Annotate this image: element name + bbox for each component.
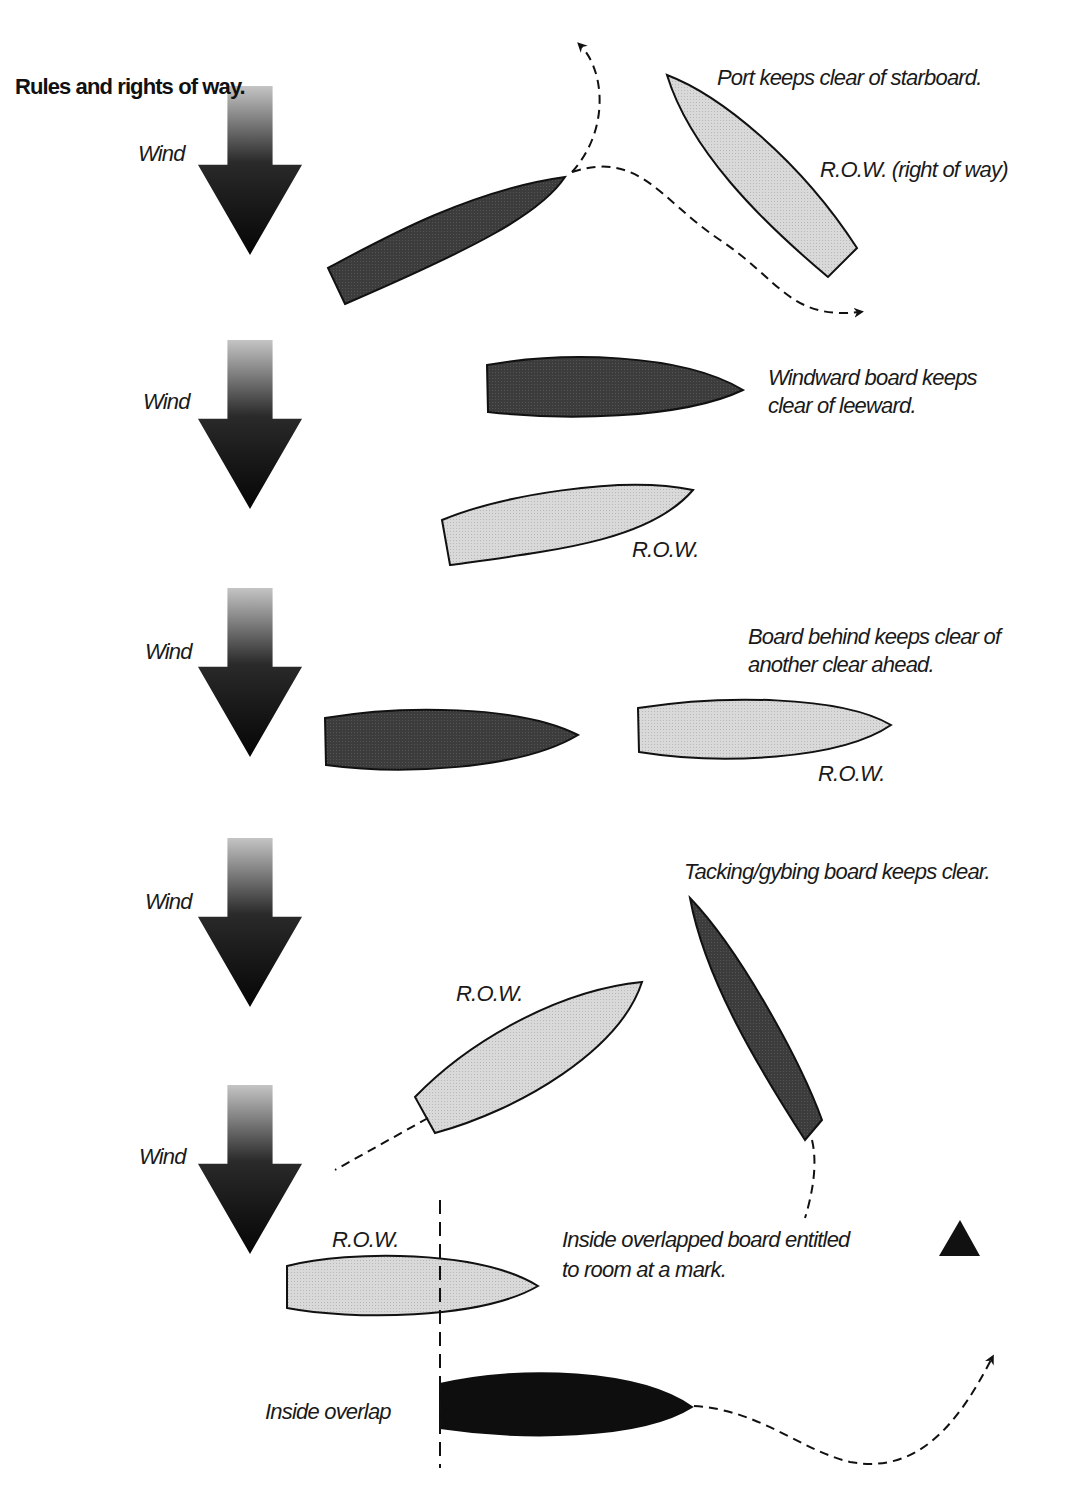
mark-icon xyxy=(939,1220,980,1256)
rule-tacking-gybing: Tacking/gybing board keeps clear. xyxy=(684,858,990,886)
row-label: R.O.W. xyxy=(818,760,885,788)
port-board xyxy=(328,177,565,304)
rule-inside-overlap-line1: Inside overlapped board entitled xyxy=(562,1226,850,1254)
rule-port-starboard: Port keeps clear of starboard. xyxy=(717,64,982,92)
row-label: R.O.W. xyxy=(632,536,699,564)
wind-label: Wind xyxy=(145,888,192,916)
tacking-board xyxy=(690,898,822,1140)
wind-arrow-icon xyxy=(198,838,302,1007)
page-title: Rules and rights of way. xyxy=(15,74,245,100)
inside-board xyxy=(440,1373,692,1435)
wind-label: Wind xyxy=(143,388,190,416)
row-label: R.O.W. (right of way) xyxy=(820,156,1008,184)
row-board-tacking xyxy=(415,982,642,1133)
rule-clear-ahead-line1: Board behind keeps clear of xyxy=(748,623,1000,651)
wind-label: Wind xyxy=(138,140,185,168)
row-label: R.O.W. xyxy=(332,1226,399,1254)
wind-arrow-icon xyxy=(198,588,302,757)
inside-overlap-label: Inside overlap xyxy=(265,1398,391,1426)
rule-windward-line2: clear of leeward. xyxy=(768,392,916,420)
wind-arrow-icon xyxy=(198,86,302,255)
rule-inside-overlap-line2: to room at a mark. xyxy=(562,1256,726,1284)
outside-board xyxy=(287,1256,538,1316)
windward-board xyxy=(487,357,743,416)
gybing-wake-path xyxy=(805,1140,814,1218)
ahead-board xyxy=(638,700,891,759)
rounding-path xyxy=(694,1358,992,1464)
rule-windward-line1: Windward board keeps xyxy=(768,364,977,392)
rules-diagram xyxy=(0,0,1074,1493)
tack-path xyxy=(572,45,600,172)
wind-label: Wind xyxy=(145,638,192,666)
wind-label: Wind xyxy=(139,1143,186,1171)
behind-board xyxy=(325,710,578,770)
row-label: R.O.W. xyxy=(456,980,523,1008)
section-tacking-gybing xyxy=(198,838,822,1218)
wind-arrow-icon xyxy=(198,1085,302,1254)
wind-arrow-icon xyxy=(198,340,302,509)
rule-clear-ahead-line2: another clear ahead. xyxy=(748,651,934,679)
tacking-wake-path xyxy=(335,1118,428,1170)
section-windward-leeward xyxy=(198,340,743,565)
